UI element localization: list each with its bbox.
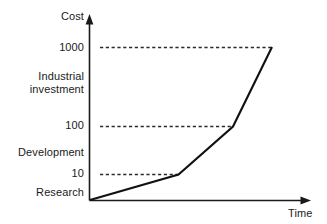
y-tick-label-1000: 1000 [40, 41, 84, 54]
phase-label-industrial-line2: investment [20, 83, 84, 96]
y-axis-title: Cost [50, 10, 84, 23]
y-axis [86, 14, 94, 201]
phase-label-research: Research [16, 186, 84, 199]
x-axis-title: Time [288, 207, 322, 220]
y-tick-label-100: 100 [40, 119, 84, 132]
cost-vs-time-chart: Cost 1000 100 10 Industrial investment D… [0, 0, 327, 224]
phase-label-industrial-investment: Industrial investment [20, 70, 84, 96]
phase-label-development: Development [10, 146, 84, 159]
phase-label-industrial-line1: Industrial [20, 70, 84, 83]
cost-curve [90, 47, 272, 200]
x-axis [90, 197, 312, 205]
y-tick-label-10: 10 [40, 167, 84, 180]
